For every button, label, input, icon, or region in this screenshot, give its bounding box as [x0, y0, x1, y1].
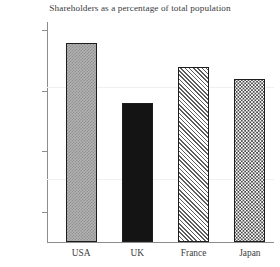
x-axis-label-usa: USA [72, 248, 91, 258]
x-axis-label-france: France [181, 248, 207, 258]
chart-title: Shareholders as a percentage of total po… [0, 3, 280, 13]
plot-area: 10%15%20%25% USAUKFranceJapan [47, 22, 272, 242]
y-axis-tick [42, 91, 48, 92]
y-axis-tick [42, 212, 48, 213]
bar-usa [66, 43, 97, 242]
bar-japan [234, 79, 265, 242]
y-axis-tick [42, 30, 48, 31]
x-axis-label-uk: UK [131, 248, 145, 258]
bar-chart-figure: Shareholders as a percentage of total po… [0, 0, 280, 267]
x-axis-line [47, 242, 274, 243]
y-axis-tick [42, 151, 48, 152]
bar-france [178, 67, 209, 242]
y-axis-line [47, 22, 48, 243]
bar-uk [122, 103, 153, 242]
x-axis-label-japan: Japan [239, 248, 260, 258]
